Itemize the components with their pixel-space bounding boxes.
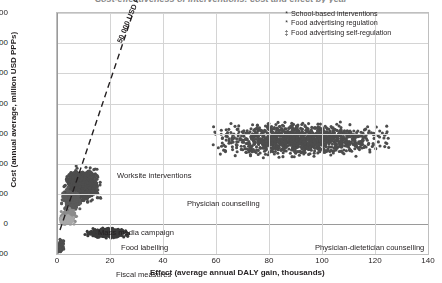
axis-x-origin xyxy=(57,13,58,254)
gridline-x-80 xyxy=(269,13,270,254)
ytick-minus200: -200 xyxy=(0,250,8,258)
legend-label: Food advertising regulation xyxy=(291,18,378,27)
xtick-120: 120 xyxy=(360,257,390,265)
gridline-x-100 xyxy=(322,13,323,254)
gridline-x-40 xyxy=(163,13,164,254)
legend-marker-icon: * xyxy=(284,18,289,27)
ytick-200: 200 xyxy=(0,190,8,198)
legend-marker-icon: * xyxy=(284,9,289,18)
gridline-x-60 xyxy=(216,13,217,254)
xtick-60: 60 xyxy=(201,257,231,265)
gridline-x-20 xyxy=(110,13,111,254)
legend-item-school-based: * School-based interventions xyxy=(284,9,440,18)
xtick-80: 80 xyxy=(254,257,284,265)
ytick-400: 400 xyxy=(0,160,8,168)
xtick-40: 40 xyxy=(148,257,178,265)
ytick-1400: 1,400 xyxy=(0,9,8,17)
gridline-y-400 xyxy=(57,164,428,165)
x-axis-title: Effect (average annual DALY gain, thousa… xyxy=(150,268,325,277)
gridline-y-600 xyxy=(57,134,428,135)
legend-item-food-advertising-regulation: * Food advertising regulation xyxy=(284,18,440,27)
ytick-600: 600 xyxy=(0,130,8,138)
annotation-physician-counselling: Physician counselling xyxy=(187,199,260,208)
gridline-x-120 xyxy=(375,13,376,254)
xtick-0: 0 xyxy=(42,257,72,265)
xtick-100: 100 xyxy=(307,257,337,265)
xtick-140: 140 xyxy=(413,257,442,265)
annotation-physician-dietetician-counselling: Physician-dietetician counselling xyxy=(315,243,424,252)
legend-item-food-advertising-self-regulation: ‡ Food advertising self-regulation xyxy=(284,28,440,37)
ytick-0: 0 xyxy=(0,220,8,228)
gridline-y-1000 xyxy=(57,73,428,74)
gridline-y-200 xyxy=(57,194,428,195)
legend: * School-based interventions * Food adve… xyxy=(284,9,440,37)
ytick-800: 800 xyxy=(0,100,8,108)
legend-marker-icon: ‡ xyxy=(284,28,289,37)
xtick-20: 20 xyxy=(95,257,125,265)
gridline-y-1200 xyxy=(57,43,428,44)
legend-label: Food advertising self-regulation xyxy=(291,28,391,37)
y-axis-title: Cost (annual average, million USD PPPs) xyxy=(9,38,18,188)
gridline-y-800 xyxy=(57,104,428,105)
chart-title: Cost-effectiveness of interventions: cos… xyxy=(0,0,442,3)
annotation-mass-media-campaign: Mass media campaign xyxy=(98,228,174,237)
plot-area: 50 000 USD PPP/DALY Worksite interventio… xyxy=(56,12,429,255)
annotation-worksite-interventions: Worksite interventions xyxy=(117,171,192,180)
axis-y-zero xyxy=(57,224,428,225)
legend-label: School-based interventions xyxy=(291,9,378,18)
ytick-1200: 1,200 xyxy=(0,39,8,47)
chart-root: Cost-effectiveness of interventions: cos… xyxy=(0,0,442,283)
annotation-food-labelling: Food labelling xyxy=(121,243,168,252)
ytick-1000: 1,000 xyxy=(0,69,8,77)
